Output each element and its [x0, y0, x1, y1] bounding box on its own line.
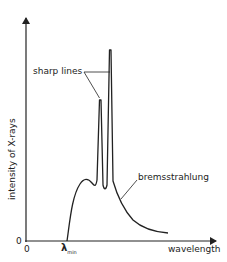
- spectrum-curve: [67, 50, 168, 241]
- sharp-lines-leader-2: [84, 72, 100, 98]
- sharp-lines-label: sharp lines: [33, 66, 82, 76]
- y-axis-label: intensity of X-rays: [7, 118, 17, 200]
- bremsstrahlung-leader: [121, 180, 137, 199]
- y-origin-label: 0: [16, 236, 22, 246]
- x-origin-label: 0: [24, 244, 30, 254]
- bremsstrahlung-label: bremsstrahlung: [138, 172, 209, 182]
- xray-spectrum-chart: sharp lines bremsstrahlung intensity of …: [0, 0, 227, 262]
- x-axis-label: wavelength: [168, 244, 220, 254]
- lambda-min-label: λmin: [61, 242, 77, 255]
